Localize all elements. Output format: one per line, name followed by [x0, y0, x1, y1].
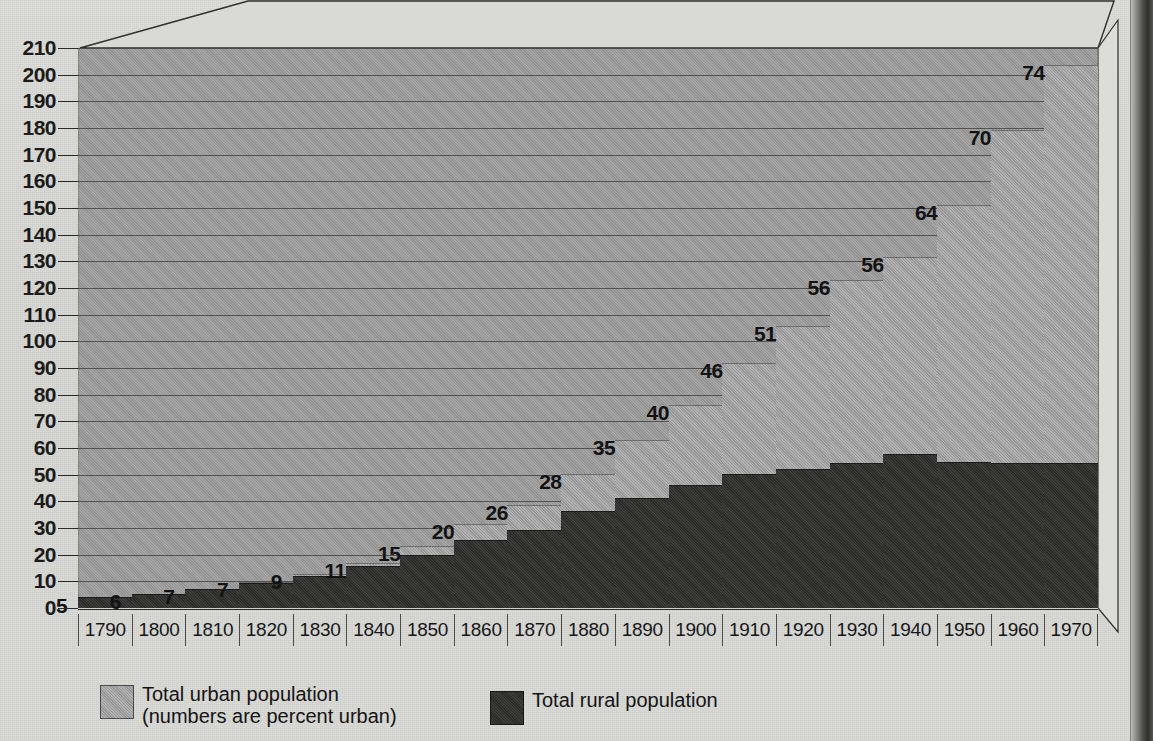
x-axis-tick-1820: 1820	[239, 614, 293, 646]
x-axis-label: 1880	[568, 619, 609, 641]
data-label-1890: 35	[593, 437, 615, 458]
bar-segment-rural	[132, 594, 186, 608]
bar-1810	[185, 589, 239, 608]
x-axis-label: 1900	[675, 619, 716, 641]
x-axis-tick-1900: 1900	[669, 614, 723, 646]
y-axis-label: 40	[0, 490, 56, 511]
bar-segment-rural	[507, 530, 561, 608]
legend-urban-line2: (numbers are percent urban)	[142, 705, 397, 727]
x-axis-label: 1940	[890, 619, 931, 641]
data-label-1960: 70	[969, 127, 991, 148]
y-axis-label: 160	[0, 170, 56, 191]
bar-1930	[830, 280, 884, 608]
bar-segment-rural	[776, 469, 830, 608]
data-label-1880: 28	[539, 471, 561, 492]
y-axis-tick	[58, 475, 78, 476]
bar-segment-rural	[722, 474, 776, 608]
y-axis-label: 120	[0, 277, 56, 298]
y-axis-label: 70	[0, 410, 56, 431]
y-axis-tick	[58, 155, 78, 156]
x-axis-tick-1960: 1960	[991, 614, 1045, 646]
y-axis-tick	[58, 75, 78, 76]
y-axis-tick	[58, 448, 78, 449]
x-axis-tick-1970: 1970	[1044, 614, 1098, 646]
gridline	[78, 75, 1098, 76]
x-axis-tick-1850: 1850	[400, 614, 454, 646]
legend-rural-line1: Total rural population	[532, 689, 718, 711]
x-axis-labels: 1790180018101820183018401850186018701880…	[78, 614, 1098, 646]
x-axis-label: 1820	[246, 619, 287, 641]
data-label-1900: 40	[647, 402, 669, 423]
bar-segment-rural	[78, 597, 132, 608]
bar-1790	[78, 598, 132, 608]
bar-segment-rural	[346, 566, 400, 608]
bar-1950	[937, 205, 991, 608]
data-label-1920: 51	[754, 323, 776, 344]
data-label-1940: 56	[861, 254, 883, 275]
y-axis-tick	[58, 48, 78, 49]
x-axis-tick-1810: 1810	[185, 614, 239, 646]
y-axis-tick	[58, 608, 78, 609]
data-label-1830: 9	[271, 571, 282, 592]
bar-1920	[776, 326, 830, 608]
data-label-1840: 11	[324, 560, 345, 581]
gridline	[78, 48, 1098, 49]
x-axis-tick-1830: 1830	[293, 614, 347, 646]
y-axis-tick	[58, 208, 78, 209]
bar-1910	[722, 363, 776, 608]
bar-segment-rural	[615, 498, 669, 608]
y-axis-tick	[58, 421, 78, 422]
x-axis-label: 1960	[997, 619, 1038, 641]
x-axis-label: 1840	[353, 619, 394, 641]
x-axis-label: 1860	[461, 619, 502, 641]
x-axis-label: 1970	[1051, 619, 1092, 641]
x-axis-label: 1810	[192, 619, 233, 641]
y-axis-label: 60	[0, 437, 56, 458]
gridline	[78, 101, 1098, 102]
bar-segment-urban	[883, 257, 937, 456]
legend-urban-line1: Total urban population	[142, 683, 397, 705]
x-axis-label: 1800	[138, 619, 179, 641]
y-axis-tick	[58, 101, 78, 102]
y-axis-label: 190	[0, 90, 56, 111]
y-axis-tick	[58, 368, 78, 369]
bar-1940	[883, 257, 937, 608]
page-edge-band	[1131, 0, 1153, 741]
y-axis-tick	[58, 395, 78, 396]
bar-segment-urban	[615, 440, 669, 500]
bar-1800	[132, 594, 186, 608]
x-axis-tick-1940: 1940	[883, 614, 937, 646]
x-axis-label: 1920	[783, 619, 824, 641]
bar-segment-urban	[561, 474, 615, 513]
y-axis-label: 100	[0, 330, 56, 351]
y-axis-label: 200	[0, 64, 56, 85]
bar-segment-urban	[722, 363, 776, 476]
bar-segment-urban	[776, 326, 830, 472]
chart-3d-lid	[78, 0, 1116, 48]
y-axis-tick	[58, 341, 78, 342]
bar-segment-urban	[1044, 65, 1098, 465]
y-axis-label: 150	[0, 197, 56, 218]
y-axis-label: 20	[0, 544, 56, 565]
y-axis-tick	[58, 235, 78, 236]
y-axis-label: 180	[0, 117, 56, 138]
x-axis-tick-1880: 1880	[561, 614, 615, 646]
data-label-1820: 7	[217, 579, 228, 600]
y-axis-label: 170	[0, 144, 56, 165]
y-axis-tick	[58, 128, 78, 129]
bar-1820	[239, 582, 293, 608]
x-axis-label: 1830	[300, 619, 341, 641]
y-axis-label: 130	[0, 250, 56, 271]
x-axis-label: 1870	[514, 619, 555, 641]
x-axis-tick-1840: 1840	[346, 614, 400, 646]
x-axis-label: 1930	[836, 619, 877, 641]
y-axis-label: 30	[0, 517, 56, 538]
y-axis-label: 50	[0, 464, 56, 485]
y-axis-tick	[58, 528, 78, 529]
bar-segment-urban	[830, 280, 884, 465]
y-axis-tick	[58, 288, 78, 289]
y-axis-label: 80	[0, 384, 56, 405]
bar-1900	[669, 405, 723, 608]
bar-segment-urban	[669, 405, 723, 487]
stacked-bar-chart: 567791115202628354046515656647074 210200…	[0, 0, 1130, 741]
